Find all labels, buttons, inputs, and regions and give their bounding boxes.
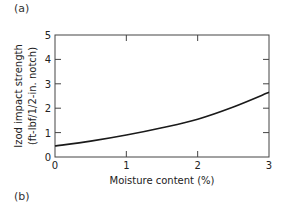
plot-frame [55,35,269,157]
x-tick-label: 1 [123,160,129,171]
x-axis-title: Moisture content (%) [110,175,215,186]
x-tick-label: 3 [266,160,272,171]
y-tick-label: 0 [45,152,51,163]
y-tick-label: 1 [45,128,51,139]
axis-ticks [55,35,269,157]
x-tick-label: 2 [194,160,200,171]
x-tick-label: 0 [52,160,58,171]
y-tick-label: 3 [45,79,51,90]
y-axis-title-line2: (ft-lbf/1/2-in. notch) [27,47,38,145]
y-tick-label: 4 [45,54,51,65]
x-tick-labels: 0123 [52,160,272,171]
y-tick-label: 5 [45,30,51,41]
data-curve [55,92,269,146]
line-chart: 0123 012345 Moisture content (%) Izod im… [0,0,294,211]
y-axis-title-line1: Izod impact strength [13,44,24,148]
y-tick-label: 2 [45,103,51,114]
y-tick-labels: 012345 [45,30,51,163]
